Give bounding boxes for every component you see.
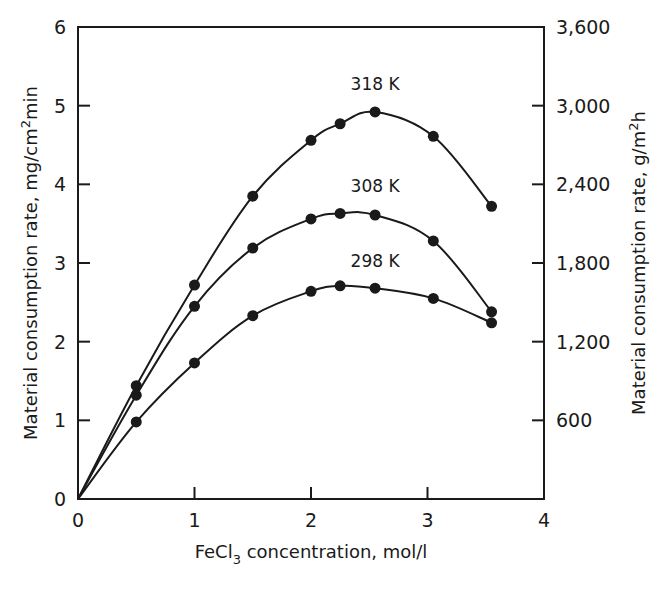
data-point	[189, 280, 200, 291]
y2-tick-label: 3,000	[556, 95, 610, 117]
x-tick-label: 3	[421, 509, 433, 531]
series-label: 318 K	[351, 74, 401, 94]
data-point	[247, 191, 258, 202]
series-label: 298 K	[351, 251, 401, 271]
data-point	[370, 106, 381, 117]
series-labels: 318 K308 K298 K	[351, 74, 401, 271]
series-markers	[131, 106, 497, 427]
data-point	[306, 135, 317, 146]
plot-frame	[78, 27, 544, 499]
data-point	[131, 416, 142, 427]
y2-tick-label: 2,400	[556, 173, 610, 195]
y2-tick-label: 1,800	[556, 252, 610, 274]
y-axis-title: Material consumption rate, mg/cm2min	[18, 86, 41, 440]
x-tick-label: 1	[188, 509, 200, 531]
y-tick-label: 2	[54, 331, 66, 353]
y-tick-label: 4	[54, 173, 66, 195]
data-point	[335, 208, 346, 219]
data-point	[486, 306, 497, 317]
y-tick-label: 3	[54, 252, 66, 274]
series-curves	[78, 112, 492, 499]
x-tick-label: 2	[305, 509, 317, 531]
data-point	[131, 390, 142, 401]
y2-tick-label: 1,200	[556, 331, 610, 353]
axis-ticks: 0123401234566001,2001,8002,4003,0003,600	[54, 16, 611, 531]
data-point	[428, 235, 439, 246]
chart: 0123401234566001,2001,8002,4003,0003,600…	[0, 0, 668, 589]
series-line	[78, 212, 492, 499]
data-point	[306, 213, 317, 224]
data-point	[370, 210, 381, 221]
y2-tick-label: 3,600	[556, 16, 610, 38]
data-point	[189, 301, 200, 312]
x-tick-label: 0	[72, 509, 84, 531]
data-point	[335, 280, 346, 291]
y-tick-label: 1	[54, 409, 66, 431]
data-point	[306, 286, 317, 297]
data-point	[428, 293, 439, 304]
data-point	[428, 131, 439, 142]
y-tick-label: 5	[54, 95, 66, 117]
data-point	[486, 201, 497, 212]
series-line	[78, 112, 492, 499]
y2-axis-title: Material consumption rate, g/m2h	[626, 111, 649, 415]
y-tick-label: 6	[54, 16, 66, 38]
x-axis-title: FeCl3 concentration, mol/l	[195, 541, 428, 567]
y2-tick-label: 600	[556, 409, 592, 431]
data-point	[370, 283, 381, 294]
data-point	[247, 310, 258, 321]
y-tick-label: 0	[54, 488, 66, 510]
data-point	[189, 357, 200, 368]
data-point	[486, 317, 497, 328]
data-point	[247, 243, 258, 254]
data-point	[131, 380, 142, 391]
data-point	[335, 118, 346, 129]
series-label: 308 K	[351, 176, 401, 196]
x-tick-label: 4	[538, 509, 550, 531]
